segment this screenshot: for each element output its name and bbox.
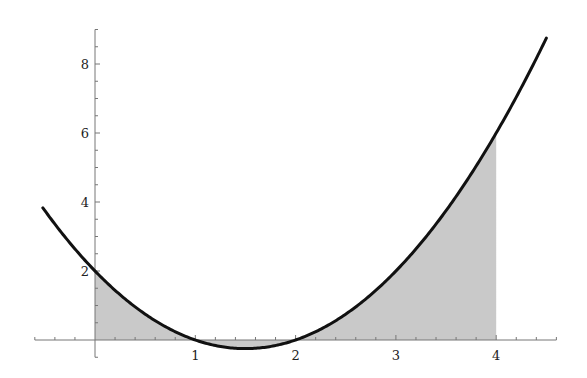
x-tick-label: 2 (291, 348, 299, 363)
x-tick-label: 1 (191, 348, 199, 363)
chart-plot: 12342468 (0, 0, 587, 378)
shaded-area (95, 133, 496, 349)
y-tick-label: 2 (81, 264, 89, 279)
y-tick-label: 6 (81, 126, 89, 141)
shaded-area-region (95, 133, 496, 349)
y-tick-label: 4 (81, 195, 89, 210)
y-tick-label: 8 (81, 57, 89, 72)
x-tick-label: 4 (492, 348, 500, 363)
x-tick-label: 3 (392, 348, 400, 363)
